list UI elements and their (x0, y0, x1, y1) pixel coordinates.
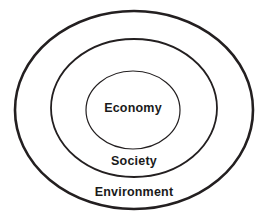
environment-ring-label: Environment (0, 186, 271, 199)
nested-circles-diagram: Economy Society Environment (0, 0, 273, 218)
society-ring-label: Society (0, 155, 271, 168)
economy-ring-label: Economy (0, 102, 270, 115)
